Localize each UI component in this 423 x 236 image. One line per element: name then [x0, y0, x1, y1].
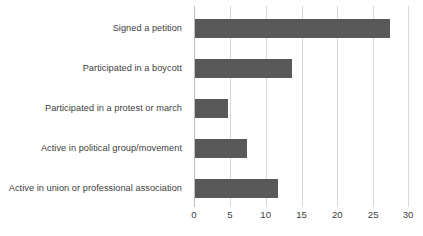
- category-label: Participated in a boycott: [0, 63, 182, 74]
- value-axis-tick-labels: 0 5 10 15 20 25 30: [0, 209, 423, 227]
- category-label: Active in political group/movement: [0, 143, 182, 154]
- bar-active-in-political-group-movement: [195, 139, 247, 158]
- bar-signed-a-petition: [195, 19, 390, 38]
- category-label: Active in union or professional associat…: [0, 183, 182, 194]
- bar-participated-in-a-boycott: [195, 59, 292, 78]
- plot-area: [194, 6, 409, 207]
- bar-participated-in-a-protest-or-march: [195, 99, 228, 118]
- x-tick-label: 30: [393, 209, 423, 221]
- gridline-30: [408, 6, 409, 207]
- bar-active-in-union-or-professional-association: [195, 179, 278, 198]
- x-tick-label: 10: [251, 209, 281, 221]
- x-tick-label: 0: [179, 209, 209, 221]
- x-tick-label: 25: [358, 209, 388, 221]
- bar-chart: Signed a petition Participated in a boyc…: [0, 0, 423, 236]
- category-axis-labels: Signed a petition Participated in a boyc…: [0, 0, 188, 236]
- category-label: Signed a petition: [0, 23, 182, 34]
- x-tick-label: 20: [322, 209, 352, 221]
- x-tick-label: 15: [287, 209, 317, 221]
- x-tick-label: 5: [215, 209, 245, 221]
- category-label: Participated in a protest or march: [0, 103, 182, 114]
